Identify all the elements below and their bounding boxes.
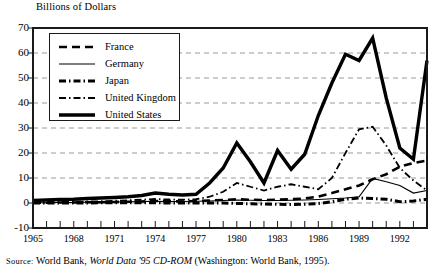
legend-item[interactable]: United States <box>50 106 179 123</box>
legend-item[interactable]: United Kingdom <box>50 89 179 106</box>
legend-item-label: France <box>105 41 134 53</box>
legend-swatch-japan-icon <box>57 75 97 87</box>
x-tick-label: 1992 <box>380 233 420 244</box>
legend-swatch-united-states-icon <box>57 109 97 121</box>
series-line-france <box>33 161 427 203</box>
chart-figure: Billions of Dollars 706050403020100-10 1… <box>0 0 439 274</box>
legend-item-label: Germany <box>105 58 144 70</box>
legend-item-label: United Kingdom <box>105 92 176 104</box>
source-text-after: (Washington: World Bank, 1995). <box>192 255 330 266</box>
source-title-italic: World Data '95 CD-ROM <box>89 255 192 266</box>
series-line-united-kingdom <box>33 127 427 203</box>
x-tick-label: 1977 <box>176 233 216 244</box>
x-tick-label: 1986 <box>298 233 338 244</box>
legend-item-label: Japan <box>105 75 129 87</box>
legend-item-label: United States <box>105 109 161 121</box>
x-tick-label: 1971 <box>95 233 135 244</box>
legend-item[interactable]: Japan <box>50 72 179 89</box>
x-tick-label: 1968 <box>54 233 94 244</box>
x-tick-label: 1983 <box>258 233 298 244</box>
x-tick-label: 1980 <box>217 233 257 244</box>
x-tick-label: 1965 <box>13 233 53 244</box>
legend-swatch-germany-icon <box>57 58 97 70</box>
legend-item[interactable]: France <box>50 38 179 55</box>
legend-swatch-united-kingdom-icon <box>57 92 97 104</box>
source-label: Source: <box>6 257 34 266</box>
chart-legend: FranceGermanyJapanUnited KingdomUnited S… <box>49 33 180 121</box>
legend-item[interactable]: Germany <box>50 55 179 72</box>
legend-swatch-france-icon <box>57 41 97 53</box>
source-text-before: World Bank, <box>36 255 89 266</box>
x-tick-label: 1974 <box>135 233 175 244</box>
source-caption: Source: World Bank, World Data '95 CD-RO… <box>6 254 330 268</box>
x-tick-label: 1989 <box>339 233 379 244</box>
